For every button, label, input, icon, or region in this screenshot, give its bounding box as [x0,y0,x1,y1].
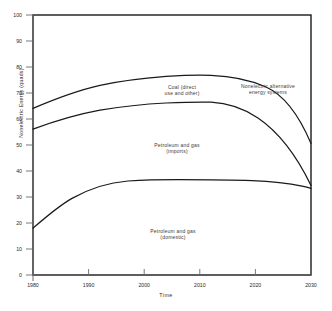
annotation-petroleum-gas-imports: Petroleum and gas (imports) [131,142,223,154]
y-tick-label-20: 20 [0,220,22,226]
y-tick-label-100: 100 [0,12,22,18]
y-tick-label-10: 10 [0,246,22,252]
annotation-coal-line2: use and other) [139,90,225,96]
x-axis-title: Time [0,292,332,298]
annotation-alt-line2: energy systems [226,89,310,95]
chart-plot-area [0,0,332,311]
annotation-nonelectric-alternative: Nonelectric alternative energy systems [226,83,310,95]
x-tick-label-2000: 2000 [127,282,161,288]
y-tick-label-30: 30 [0,194,22,200]
chart-figure: 100 90 80 70 60 50 40 30 20 10 0 1980 19… [0,0,332,311]
x-tick-label-2020: 2020 [238,282,272,288]
annotation-coal: Coal (direct use and other) [139,84,225,96]
y-tick-marks [26,15,33,275]
annotation-imports-line2: (imports) [131,148,223,154]
x-tick-label-1980: 1980 [16,282,50,288]
y-tick-label-0: 0 [0,272,22,278]
annotation-petroleum-gas-domestic: Petroleum and gas (domestic) [121,228,225,240]
x-tick-label-2010: 2010 [183,282,217,288]
y-tick-label-40: 40 [0,168,22,174]
x-tick-label-1990: 1990 [72,282,106,288]
y-axis-title: Nonelectric Energy (quads) [18,38,24,168]
annotation-domestic-line2: (domestic) [121,234,225,240]
x-tick-label-2030: 2030 [294,282,328,288]
